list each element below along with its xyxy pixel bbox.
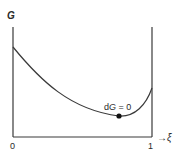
arrow-right-icon: →: [157, 132, 167, 143]
x-axis-label: →ξ: [157, 133, 171, 143]
annotation-suffix: = 0: [116, 102, 131, 112]
minimum-annotation: dG = 0: [104, 103, 131, 112]
x-tick-0: 0: [10, 142, 15, 151]
diagram-canvas: [0, 0, 183, 156]
gibbs-energy-diagram: G 0 1 →ξ dG = 0: [0, 0, 183, 156]
annotation-var: G: [109, 102, 116, 112]
y-axis-label: G: [7, 11, 15, 21]
equilibrium-point: [116, 113, 121, 118]
xi-symbol: ξ: [167, 132, 171, 143]
x-tick-1: 1: [148, 142, 153, 151]
